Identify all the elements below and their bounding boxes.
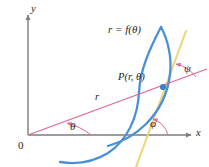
psi-angle-label: ψ (184, 63, 191, 74)
diagram-canvas (0, 0, 209, 167)
y-axis-label: y (31, 4, 36, 15)
origin-label: 0 (18, 140, 24, 151)
point-p-marker (160, 84, 166, 90)
x-axis-label: x (196, 128, 201, 139)
point-p-label: P(r, θ) (118, 72, 145, 83)
curve-equation-label: r = f(θ) (108, 24, 141, 35)
theta-angle-label: θ (70, 121, 75, 132)
phi-angle-label: φ (150, 118, 156, 129)
polar-coordinate-diagram: r = f(θ) P(r, θ) r θ φ ψ x y 0 (0, 0, 209, 167)
tangent-line (136, 31, 186, 167)
radius-label: r (95, 92, 99, 103)
